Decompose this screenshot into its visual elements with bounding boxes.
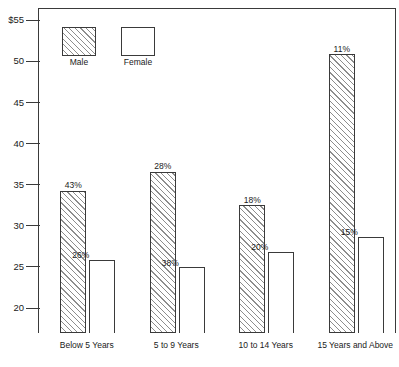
- bar-value-label: 11%: [334, 45, 350, 54]
- y-axis-tick-label: 35: [0, 180, 24, 190]
- x-axis-category-label: Below 5 Years: [60, 341, 114, 350]
- bar-male-3: 11%: [329, 54, 355, 333]
- y-axis-tick-label: 20: [0, 303, 24, 313]
- legend-swatch-male: [62, 27, 96, 56]
- bar-value-label: 43%: [65, 181, 82, 190]
- bar-female-0: 26%: [89, 260, 115, 333]
- bar-value-label: 20%: [251, 243, 268, 252]
- y-axis-tick-label: 45: [0, 98, 24, 108]
- bar-value-label: 15%: [341, 228, 358, 237]
- bar-chart: 20253035404550$55 43%26%28%38%18%20%11%1…: [0, 0, 399, 367]
- bar-value-label: 26%: [72, 251, 89, 260]
- bar-female-2: 20%: [268, 252, 294, 333]
- y-axis-tick-label: $55: [0, 15, 24, 25]
- x-axis-category-label: 15 Years and Above: [317, 341, 393, 350]
- bar-female-1: 38%: [179, 267, 205, 333]
- legend-label-female: Female: [121, 58, 155, 67]
- y-axis-tick-label: 25: [0, 262, 24, 272]
- legend-entry-female: Female: [121, 27, 155, 67]
- bar-value-label: 38%: [162, 259, 179, 268]
- bar-value-label: 18%: [244, 196, 261, 205]
- bar-male-1: 28%: [150, 172, 176, 333]
- bar-male-2: 18%: [239, 205, 265, 333]
- y-axis-labels: 20253035404550$55: [0, 0, 24, 367]
- x-axis-category-label: 5 to 9 Years: [154, 341, 199, 350]
- y-axis-tick-label: 30: [0, 221, 24, 231]
- legend-label-male: Male: [62, 58, 96, 67]
- y-axis-tick-label: 40: [0, 139, 24, 149]
- bar-value-label: 28%: [154, 162, 171, 171]
- y-axis-tick-label: 50: [0, 56, 24, 66]
- x-axis-category-label: 10 to 14 Years: [239, 341, 293, 350]
- legend-swatch-female: [121, 27, 155, 56]
- bar-female-3: 15%: [358, 237, 384, 333]
- legend-entry-male: Male: [62, 27, 96, 67]
- bar-male-0: 43%: [60, 191, 86, 333]
